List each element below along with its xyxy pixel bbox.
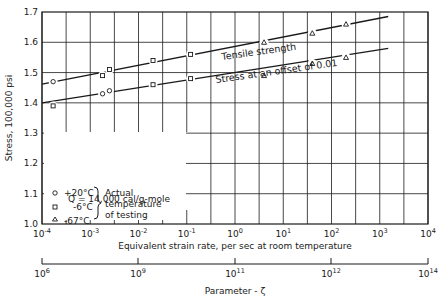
y-tick-label: 1.1	[24, 189, 38, 199]
y-tick-label: 1.3	[24, 128, 38, 138]
x-tick-label: 10-2	[130, 227, 148, 239]
y-axis-label: Stress, 100,000 psi	[4, 75, 14, 161]
x-tick-label: 10-1	[178, 227, 196, 239]
brace-label-line3: of testing	[105, 210, 148, 220]
legend-label-minus67c: -67°C	[64, 216, 89, 226]
secondary-x-axis: 106109101110121014 Parameter - ζ	[34, 258, 438, 296]
x-tick-label: 100	[227, 227, 243, 239]
y-tick-label: 1.7	[24, 7, 38, 17]
y-tick-label: 1.5	[24, 68, 38, 78]
stress-vs-strain-rate-chart: 1.01.11.21.31.41.51.61.7 10-410-310-210-…	[0, 0, 446, 300]
activation-energy-note: Q = 14,000 cal/g-mole	[68, 194, 170, 204]
y-axis-ticks: 1.01.11.21.31.41.51.61.7	[24, 7, 39, 229]
y-tick-label: 1.2	[24, 158, 38, 168]
tensile-strength-label: Tensile strength	[220, 41, 297, 62]
y-tick-label: 1.4	[24, 98, 39, 108]
y-tick-label: 1.6	[24, 37, 39, 47]
parameter-tick-label: 1014	[418, 267, 438, 279]
offset-stress-label: Stress at an offset of 0.01	[215, 57, 338, 85]
parameter-tick-label: 106	[34, 267, 50, 279]
x-axis-label: Equivalent strain rate, per sec at room …	[118, 241, 352, 251]
x-tick-label: 102	[324, 227, 340, 239]
x-tick-label: 104	[420, 227, 436, 239]
x-tick-label: 10-4	[33, 227, 51, 239]
x-tick-label: 103	[372, 227, 388, 239]
parameter-tick-label: 1011	[225, 267, 245, 279]
parameter-axis-label: Parameter - ζ	[205, 286, 266, 296]
y-tick-label: 1.0	[24, 219, 39, 229]
x-axis-ticks: 10-410-310-210-1100101102103104	[33, 227, 436, 239]
x-tick-label: 101	[275, 227, 291, 239]
parameter-tick-label: 1012	[321, 267, 341, 279]
parameter-tick-label: 109	[130, 267, 146, 279]
x-tick-label: 10-3	[81, 227, 99, 239]
